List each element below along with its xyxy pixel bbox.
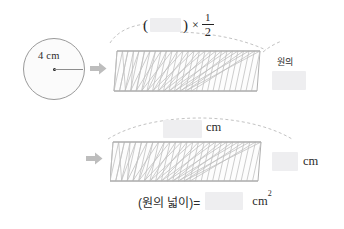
radius-line [54,69,83,70]
close-paren: ) [183,18,188,33]
sector-strip-figure-2 [110,140,262,184]
fraction-denominator: 2 [205,25,211,39]
unit-label-cm-squared: cm2 [252,193,271,209]
formula-circle-area: (원의 넓이)= cm2 [138,192,272,210]
dashed-connector-left [108,22,148,44]
radius-label: 4 cm [38,50,60,61]
arrow-right-icon [90,62,107,75]
worksheet-canvas: 4 cm ( ) × 1 2 [0,0,344,229]
unit-label-cm-top: cm [206,120,221,135]
sector-strip-figure-1 [113,48,261,94]
label-circle-area: (원의 넓이)= [138,193,200,210]
formula-half-circumference: ( ) × 1 2 [143,12,214,39]
arrow-right-icon-2 [86,152,103,165]
answer-blank-circumference[interactable] [150,18,181,32]
dashed-connector-side [262,40,284,54]
open-paren: ( [143,18,148,33]
unit-label-cm-side: cm [303,154,318,169]
answer-blank-base-length[interactable] [163,120,202,138]
answer-blank-height-row2[interactable] [272,152,298,171]
unit-exponent: 2 [268,189,272,198]
unit-cm: cm [252,194,267,208]
fraction-numerator: 1 [205,12,211,24]
fraction-one-half: 1 2 [202,12,214,39]
answer-blank-area[interactable] [205,192,243,210]
answer-blank-radius-row1[interactable] [272,71,306,90]
label-circle-possessive: 원의 [277,55,293,68]
multiply-sign: × [192,18,199,33]
